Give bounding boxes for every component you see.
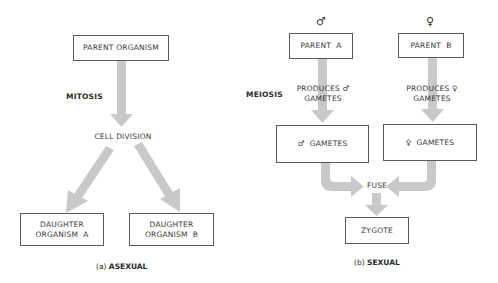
parent-organism-box: PARENT ORGANISM	[73, 35, 169, 61]
daughter-organism-b-box: DAUGHTER ORGANISM B	[129, 213, 214, 246]
female-gametes-label: ♀ GAMETES	[406, 138, 455, 148]
arrow-parent-to-division	[110, 60, 133, 127]
daughter-a-line2: ORGANISM A	[35, 230, 88, 240]
sexual-caption-title: SEXUAL	[367, 258, 400, 267]
arrow-division-to-daughter-a	[66, 146, 114, 213]
asexual-caption-title: ASEXUAL	[109, 262, 148, 271]
parent-b-label: PARENT B	[410, 41, 451, 51]
produces-female-line1: PRODUCES ♀	[399, 84, 465, 94]
daughter-b-line2: ORGANISM B	[145, 230, 198, 240]
produces-male-line2: GAMETES	[290, 94, 356, 104]
asexual-caption: (a) ASEXUAL	[96, 262, 147, 271]
male-symbol-icon: ♂	[316, 16, 326, 28]
asexual-caption-letter: (a)	[96, 262, 106, 271]
male-gametes-label: ♂ GAMETES	[298, 139, 348, 149]
produces-male-gametes-label: PRODUCES ♂ GAMETES	[290, 84, 356, 104]
female-gametes-box: ♀ GAMETES	[383, 124, 477, 161]
zygote-label: ZYGOTE	[361, 226, 393, 236]
male-gametes-box: ♂ GAMETES	[276, 125, 369, 163]
arrow-division-to-daughter-b	[134, 142, 180, 212]
cell-division-label: CELL DIVISION	[88, 132, 158, 142]
mitosis-label: MITOSIS	[66, 92, 103, 102]
fuse-label: FUSE	[362, 181, 392, 191]
sexual-caption-letter: (b)	[354, 258, 365, 267]
parent-organism-label: PARENT ORGANISM	[83, 43, 159, 53]
zygote-box: ZYGOTE	[345, 217, 409, 244]
sexual-caption: (b) SEXUAL	[354, 258, 400, 267]
parent-a-box: PARENT A	[289, 33, 353, 59]
arrow-male-gametes-to-fuse	[321, 162, 364, 197]
parent-b-box: PARENT B	[398, 33, 464, 58]
daughter-b-line1: DAUGHTER	[150, 220, 194, 230]
produces-male-line1: PRODUCES ♂	[290, 84, 356, 94]
produces-female-gametes-label: PRODUCES ♀ GAMETES	[399, 84, 465, 104]
daughter-organism-a-box: DAUGHTER ORGANISM A	[20, 213, 104, 246]
daughter-a-line1: DAUGHTER	[40, 220, 84, 230]
female-symbol-icon: ♀	[426, 16, 434, 28]
meiosis-label: MEIOSIS	[246, 90, 283, 100]
produces-female-line2: GAMETES	[399, 94, 465, 104]
arrow-fuse-to-zygote	[365, 193, 388, 216]
arrow-female-gametes-to-fuse	[386, 160, 436, 197]
parent-a-label: PARENT A	[300, 41, 341, 51]
